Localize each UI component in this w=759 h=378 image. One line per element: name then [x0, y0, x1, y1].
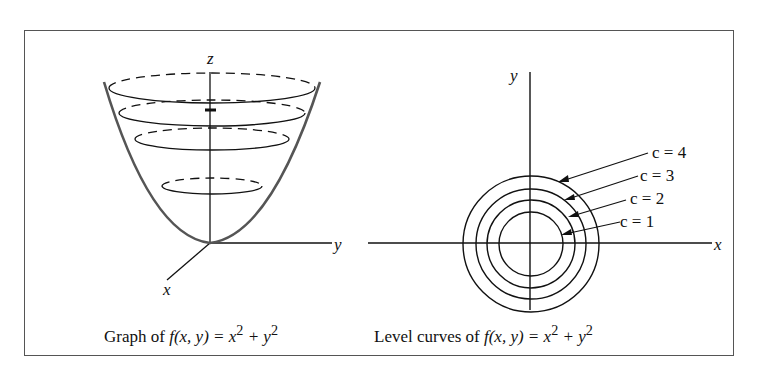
leader-c2 [572, 200, 626, 216]
caption-prefix: Level curves of [374, 327, 484, 346]
section-2-front [135, 139, 289, 150]
level-curve-c3 [476, 189, 586, 299]
arrowheads [558, 175, 579, 235]
z-axis-label: z [206, 49, 214, 68]
x-axis-label: x [713, 235, 722, 254]
section-4-back [109, 73, 315, 88]
left-caption: Graph of f(x, y) = x2 + y2 [104, 322, 278, 347]
level-curve-c1 [499, 212, 563, 276]
arrowhead-c2 [568, 211, 579, 217]
caption-exponent: 2 [271, 322, 278, 338]
section-1-back [162, 178, 262, 186]
right-caption: Level curves of f(x, y) = x2 + y2 [374, 322, 593, 347]
arrowhead-c3 [564, 194, 575, 200]
paraboloid-graph [104, 72, 332, 280]
caption-function: f(x, y) = x [169, 327, 236, 346]
section-2-back [135, 128, 289, 139]
arrowhead-c1 [561, 229, 572, 235]
x-axis-label: x [162, 280, 171, 299]
level-label-c2: c = 2 [630, 189, 664, 208]
level-curve-c4 [463, 176, 599, 312]
caption-term: + y [558, 327, 586, 346]
arrowhead-c4 [558, 175, 569, 182]
y-axis-label: y [332, 235, 342, 254]
section-4-front [109, 88, 315, 103]
leader-c1 [565, 222, 620, 234]
section-1-front [162, 186, 262, 194]
caption-function: f(x, y) = x [484, 327, 551, 346]
y-axis-label: y [508, 66, 518, 85]
level-label-c1: c = 1 [620, 212, 654, 231]
level-label-c4: c = 4 [652, 143, 687, 162]
caption-exponent: 2 [586, 322, 593, 338]
caption-term: + y [243, 327, 271, 346]
level-curve-c2 [487, 200, 575, 288]
paraboloid-profile [104, 82, 320, 243]
leader-c3 [568, 176, 638, 199]
level-label-c3: c = 3 [640, 166, 674, 185]
caption-prefix: Graph of [104, 327, 169, 346]
x-axis [167, 243, 210, 280]
section-3-front [119, 113, 305, 126]
